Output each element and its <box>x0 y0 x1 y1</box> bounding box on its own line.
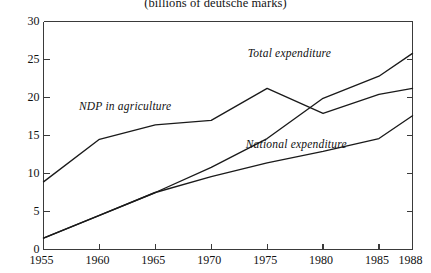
series-label-1: Total expenditure <box>248 47 331 59</box>
y-tick-label: 10 <box>28 166 40 181</box>
y-tick-label: 20 <box>28 90 40 105</box>
y-tick-label: 5 <box>34 204 40 219</box>
x-tick-label: 1988 <box>399 253 431 268</box>
chart-plot-area <box>0 0 431 273</box>
y-tick-label: 15 <box>28 128 40 143</box>
chart-series <box>44 53 413 238</box>
y-tick-label: 25 <box>28 52 40 67</box>
series-line-2 <box>44 116 413 238</box>
chart-container: (billions of deutsche marks) 05101520253… <box>0 0 431 273</box>
series-line-1 <box>44 53 413 238</box>
series-label-2: National expenditure <box>246 138 347 150</box>
series-label-0: NDP in agriculture <box>79 100 171 112</box>
y-tick-label: 30 <box>28 14 40 29</box>
